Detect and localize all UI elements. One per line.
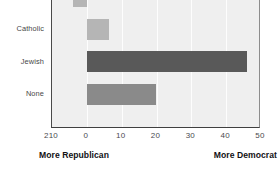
category-label-protestant: Protestant [9, 0, 44, 1]
x-tick-30: 30 [186, 131, 195, 140]
category-label-catholic: Catholic [16, 24, 44, 33]
axis-direction-annotations: More Republican More Democrat [0, 150, 279, 174]
x-axis-tick-labels: 21001020304050 [51, 129, 260, 145]
category-label-none: None [26, 89, 44, 98]
x-tick-50: 50 [255, 131, 264, 140]
x-tick--10: 210 [44, 131, 58, 140]
annotation-more-democrat: More Democrat [214, 150, 277, 160]
x-tick-0: 0 [84, 131, 89, 140]
x-tick-40: 40 [221, 131, 230, 140]
x-tick-20: 20 [151, 131, 160, 140]
plot-area [51, 0, 260, 128]
category-label-jewish: Jewish [21, 57, 44, 66]
bar-none [87, 84, 157, 105]
annotation-more-republican: More Republican [39, 150, 109, 160]
bar-protestant [73, 0, 87, 7]
category-axis-labels: Protestant Catholic Jewish None [0, 0, 50, 128]
x-tick-10: 10 [116, 131, 125, 140]
bar-jewish [87, 51, 247, 72]
bar-catholic [87, 19, 110, 40]
bar-chart-figure: Protestant Catholic Jewish None 21001020… [0, 0, 279, 174]
